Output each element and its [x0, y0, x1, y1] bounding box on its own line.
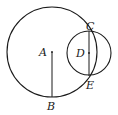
label-e: E — [85, 79, 94, 92]
label-c: C — [86, 20, 95, 33]
label-d: D — [75, 47, 85, 60]
geometry-diagram: A B C D E — [0, 0, 118, 115]
center-dot-d — [88, 52, 90, 54]
label-b: B — [46, 100, 55, 113]
label-a: A — [38, 46, 47, 59]
center-dot-a — [51, 51, 53, 53]
